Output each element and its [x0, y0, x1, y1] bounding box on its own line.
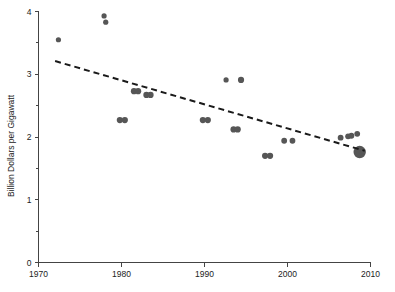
data-point [281, 138, 287, 144]
x-tick-label: 1970 [29, 269, 48, 279]
y-tick-label: 1 [27, 195, 32, 205]
data-point [338, 135, 344, 141]
y-tick-label: 3 [27, 69, 32, 79]
data-point [205, 117, 211, 123]
data-point [354, 131, 360, 137]
x-tick-label: 1990 [195, 269, 214, 279]
x-tick-label: 2000 [278, 269, 297, 279]
y-tick-label: 2 [27, 132, 32, 142]
data-point [290, 138, 296, 144]
data-point [122, 117, 128, 123]
data-point [223, 77, 228, 82]
x-tick-label: 1980 [112, 269, 131, 279]
data-point [238, 77, 244, 83]
y-axis-ticks: 01234 [27, 7, 39, 268]
data-point [135, 88, 141, 94]
data-point [147, 92, 153, 98]
plot-area: 01234 19701980199020002010 Billion Dolla… [0, 0, 395, 292]
scatter-chart: 01234 19701980199020002010 Billion Dolla… [0, 0, 395, 292]
data-point [267, 153, 273, 159]
x-tick-label: 2010 [361, 269, 380, 279]
trend-line [55, 61, 365, 151]
data-point [103, 20, 108, 25]
y-axis-title: Billion Dollars per Gigawatt [6, 94, 16, 197]
y-tick-label: 0 [27, 258, 32, 268]
data-point [235, 126, 241, 132]
data-point [349, 133, 355, 139]
axes-group [39, 12, 371, 263]
data-point [56, 37, 61, 42]
y-tick-label: 4 [27, 7, 32, 17]
x-axis-ticks: 19701980199020002010 [29, 263, 380, 279]
data-point [101, 13, 106, 18]
